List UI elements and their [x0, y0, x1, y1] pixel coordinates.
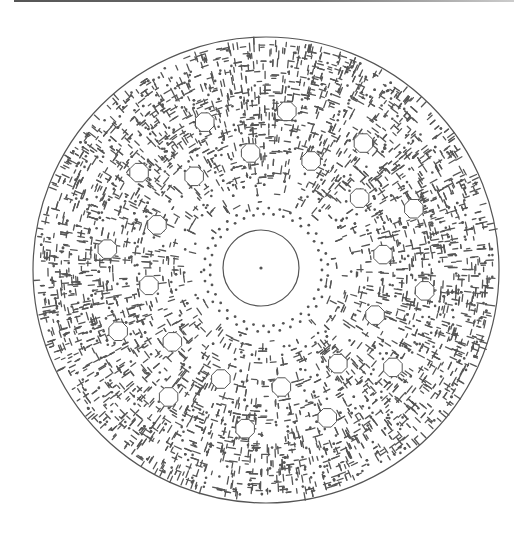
- circular-pcb-diagram: [0, 0, 520, 533]
- center-dot: [259, 266, 262, 269]
